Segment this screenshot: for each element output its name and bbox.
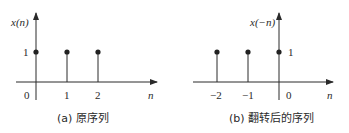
x-tick-label: 0 [24, 90, 30, 101]
x-tick-label: −1 [242, 90, 254, 101]
x-tick-label: 2 [95, 90, 101, 101]
x-tick-label: 0 [286, 90, 292, 101]
x-tick-label: 1 [64, 90, 70, 101]
caption: (a) 原序列 [57, 113, 109, 125]
stem-dot [64, 49, 69, 54]
stem-dot [95, 49, 100, 54]
x-tick-label: −2 [210, 90, 222, 101]
stem-dot [276, 49, 281, 54]
y-tick-label: 1 [288, 47, 294, 58]
stem-dot [214, 49, 219, 54]
stem-dot [33, 49, 38, 54]
y-axis-label: x(n) [11, 17, 29, 28]
left-plot [16, 13, 157, 100]
y-axis-label: x(−n) [250, 17, 275, 28]
caption: (b) 翻转后的序列 [229, 113, 314, 125]
x-axis-label: n [327, 90, 333, 101]
x-axis-label: n [148, 90, 154, 101]
stem-dot [245, 49, 250, 54]
y-tick-label: 1 [23, 47, 29, 58]
